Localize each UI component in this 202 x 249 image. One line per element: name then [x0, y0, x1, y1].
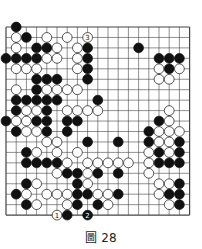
white-stone [32, 64, 42, 74]
black-stone [83, 74, 93, 84]
white-stone [73, 148, 83, 158]
black-stone [32, 158, 42, 168]
white-stone [103, 189, 113, 199]
white-stone [52, 43, 62, 53]
black-stone [52, 95, 62, 105]
go-board: 123 [0, 0, 202, 225]
black-stone [22, 158, 32, 168]
white-stone [164, 116, 174, 126]
black-stone [22, 148, 32, 158]
white-stone [11, 85, 21, 95]
black-stone [62, 116, 72, 126]
white-stone [154, 189, 164, 199]
black-stone [83, 53, 93, 63]
white-stone [83, 179, 93, 189]
black-stone [175, 137, 185, 147]
white-stone [62, 158, 72, 168]
black-stone [83, 189, 93, 199]
white-stone [52, 137, 62, 147]
black-stone [42, 106, 52, 116]
black-stone [11, 127, 21, 137]
white-stone [154, 64, 164, 74]
white-stone [83, 168, 93, 178]
black-stone [42, 95, 52, 105]
white-stone [164, 106, 174, 116]
white-stone [22, 116, 32, 126]
black-stone [113, 189, 123, 199]
black-stone [11, 22, 21, 32]
black-stone [93, 200, 103, 210]
black-stone [42, 116, 52, 126]
black-stone [175, 53, 185, 63]
black-stone [164, 53, 174, 63]
black-stone [11, 53, 21, 63]
black-stone [32, 116, 42, 126]
black-stone [62, 168, 72, 178]
white-stone [42, 189, 52, 199]
white-stone [164, 179, 174, 189]
black-stone [164, 64, 174, 74]
white-stone [93, 189, 103, 199]
white-stone [62, 200, 72, 210]
white-stone [22, 189, 32, 199]
white-stone [164, 148, 174, 158]
black-stone [22, 200, 32, 210]
white-stone [52, 168, 62, 178]
white-stone [73, 53, 83, 63]
white-stone [32, 127, 42, 137]
white-stone [32, 200, 42, 210]
black-stone [154, 116, 164, 126]
white-stone [164, 127, 174, 137]
white-stone [42, 53, 52, 63]
black-stone [175, 189, 185, 199]
white-stone [144, 168, 154, 178]
white-stone [62, 106, 72, 116]
black-stone [154, 53, 164, 63]
black-stone [32, 95, 42, 105]
white-stone [73, 85, 83, 95]
black-stone [22, 95, 32, 105]
white-stone [22, 106, 32, 116]
black-stone [32, 43, 42, 53]
black-stone [73, 200, 83, 210]
white-stone [154, 74, 164, 84]
black-stone [73, 168, 83, 178]
white-stone [42, 33, 52, 43]
white-stone [11, 33, 21, 43]
white-stone [164, 74, 174, 84]
black-stone [154, 158, 164, 168]
black-stone [154, 148, 164, 158]
white-stone [175, 64, 185, 74]
black-stone [42, 127, 52, 137]
black-stone [52, 158, 62, 168]
white-stone [113, 158, 123, 168]
black-stone [175, 158, 185, 168]
white-stone [144, 148, 154, 158]
black-stone [11, 106, 21, 116]
white-stone [32, 106, 42, 116]
black-stone [93, 168, 103, 178]
white-stone [52, 189, 62, 199]
white-stone [22, 127, 32, 137]
black-stone [32, 53, 42, 63]
black-stone [52, 74, 62, 84]
black-stone [73, 116, 83, 126]
white-stone [42, 85, 52, 95]
black-stone [32, 85, 42, 95]
white-stone [62, 33, 72, 43]
black-stone [93, 95, 103, 105]
black-stone [11, 95, 21, 105]
white-stone [62, 85, 72, 95]
white-stone [154, 127, 164, 137]
white-stone [103, 158, 113, 168]
white-stone [32, 179, 42, 189]
black-stone [83, 137, 93, 147]
black-stone [42, 158, 52, 168]
white-stone [154, 179, 164, 189]
white-stone [11, 116, 21, 126]
white-stone [42, 137, 52, 147]
white-stone [83, 106, 93, 116]
white-stone [32, 148, 42, 158]
black-stone [113, 168, 123, 178]
black-stone [42, 74, 52, 84]
